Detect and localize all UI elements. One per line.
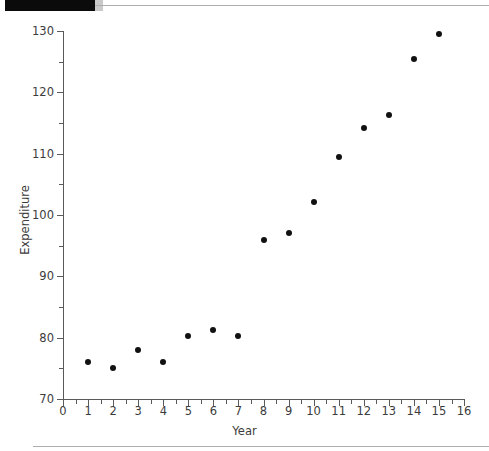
x-tick-minor bbox=[176, 400, 177, 404]
data-point bbox=[235, 333, 241, 339]
data-point bbox=[160, 359, 166, 365]
x-tick-label: 3 bbox=[135, 404, 142, 418]
x-axis-title: Year bbox=[0, 424, 489, 438]
data-point bbox=[286, 230, 292, 236]
x-tick-label: 0 bbox=[59, 404, 66, 418]
y-tick-label: 70 bbox=[39, 392, 54, 406]
x-tick-label: 6 bbox=[210, 404, 217, 418]
y-tick-label: 80 bbox=[39, 331, 54, 345]
y-tick-major bbox=[57, 276, 63, 277]
x-tick-label: 14 bbox=[407, 404, 422, 418]
data-point bbox=[311, 199, 317, 205]
y-tick-major bbox=[57, 215, 63, 216]
y-tick-label: 100 bbox=[32, 208, 54, 222]
y-tick-minor bbox=[59, 368, 63, 369]
y-tick-major bbox=[57, 92, 63, 93]
y-tick-label: 110 bbox=[32, 147, 54, 161]
footer-divider bbox=[33, 446, 489, 447]
x-tick-label: 13 bbox=[381, 404, 396, 418]
data-point bbox=[185, 333, 191, 339]
x-tick-minor bbox=[452, 400, 453, 404]
x-tick-minor bbox=[201, 400, 202, 404]
data-point bbox=[436, 31, 442, 37]
x-tick-label: 11 bbox=[331, 404, 346, 418]
data-point bbox=[261, 237, 267, 243]
y-tick-label: 90 bbox=[39, 269, 54, 283]
x-tick-label: 5 bbox=[185, 404, 192, 418]
x-tick-minor bbox=[76, 400, 77, 404]
x-tick-label: 8 bbox=[260, 404, 267, 418]
y-tick-minor bbox=[59, 123, 63, 124]
x-tick-minor bbox=[126, 400, 127, 404]
y-axis-line bbox=[63, 31, 64, 400]
data-point bbox=[110, 365, 116, 371]
x-tick-label: 4 bbox=[160, 404, 167, 418]
x-tick-label: 7 bbox=[235, 404, 242, 418]
y-tick-label: 120 bbox=[32, 85, 54, 99]
data-point bbox=[386, 112, 392, 118]
x-tick-label: 1 bbox=[84, 404, 91, 418]
y-tick-minor bbox=[59, 307, 63, 308]
x-tick-minor bbox=[351, 400, 352, 404]
x-tick-minor bbox=[326, 400, 327, 404]
data-point bbox=[135, 347, 141, 353]
data-point bbox=[210, 327, 216, 333]
chart-page: 708090100110120130 012345678910111213141… bbox=[0, 0, 489, 451]
x-tick-label: 2 bbox=[109, 404, 116, 418]
y-tick-minor bbox=[59, 62, 63, 63]
x-tick-minor bbox=[426, 400, 427, 404]
x-tick-minor bbox=[251, 400, 252, 404]
y-tick-minor bbox=[59, 246, 63, 247]
y-tick-major bbox=[57, 154, 63, 155]
x-tick-minor bbox=[101, 400, 102, 404]
y-tick-major bbox=[57, 31, 63, 32]
y-tick-minor bbox=[59, 184, 63, 185]
y-tick-major bbox=[57, 338, 63, 339]
x-tick-minor bbox=[151, 400, 152, 404]
x-tick-minor bbox=[376, 400, 377, 404]
x-tick-minor bbox=[301, 400, 302, 404]
data-point bbox=[85, 359, 91, 365]
scatter-plot: 708090100110120130 012345678910111213141… bbox=[0, 0, 489, 451]
y-axis-title: Expenditure bbox=[18, 185, 32, 255]
x-tick-label: 16 bbox=[457, 404, 472, 418]
data-point bbox=[336, 154, 342, 160]
x-tick-minor bbox=[226, 400, 227, 404]
y-tick-label: 130 bbox=[32, 24, 54, 38]
data-point bbox=[411, 56, 417, 62]
data-point bbox=[361, 125, 367, 131]
x-tick-label: 15 bbox=[432, 404, 447, 418]
x-tick-label: 12 bbox=[356, 404, 371, 418]
x-tick-minor bbox=[401, 400, 402, 404]
x-tick-label: 9 bbox=[285, 404, 292, 418]
x-tick-label: 10 bbox=[306, 404, 321, 418]
x-tick-minor bbox=[276, 400, 277, 404]
